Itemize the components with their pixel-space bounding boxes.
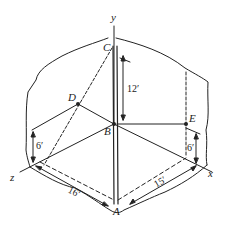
x-axis-label: x: [208, 168, 213, 179]
dim-6-left-label: 6′: [36, 141, 43, 151]
diagram-canvas: y x z C D B E A 12′ 6′ 6′ 16′ 15′: [0, 0, 232, 238]
dashed-cd: [44, 48, 112, 165]
z-axis: [20, 124, 114, 172]
z-axis-label: z: [10, 172, 14, 183]
diagram-drawing: [0, 0, 232, 238]
d-to-left-wall: [32, 104, 78, 130]
point-c-label: C: [103, 42, 110, 53]
point-e-label: E: [189, 113, 196, 124]
point-d-label: D: [68, 92, 76, 103]
point-b-label: B: [104, 126, 111, 137]
pole-right: [117, 46, 118, 204]
dim-6-right-label: 6′: [187, 143, 194, 153]
point-a-label: A: [113, 206, 120, 217]
dim-12-label: 12′: [127, 84, 139, 94]
point-d: [76, 102, 80, 106]
right-wall-outline: [116, 38, 208, 165]
point-b: [112, 122, 116, 126]
point-e: [184, 122, 188, 126]
cable-bd: [78, 104, 114, 124]
x-axis: [114, 124, 212, 172]
y-axis-label: y: [111, 12, 116, 23]
